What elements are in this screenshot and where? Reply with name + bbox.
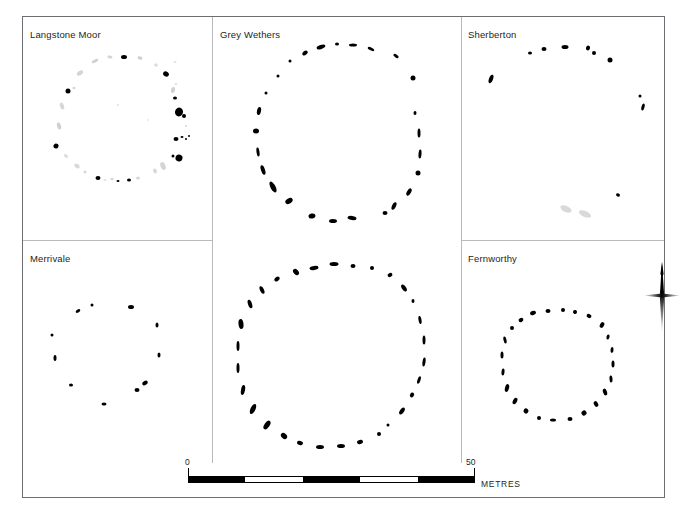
scale-bar <box>188 476 475 483</box>
scale-bar-group: 0 50 METRES <box>0 0 686 518</box>
scale-segment <box>245 476 302 483</box>
stone-circle-plans-figure: Langstone Moor Grey Wethers Sherberton M… <box>0 0 686 518</box>
scale-label-start: 0 <box>185 457 190 467</box>
scale-segment <box>418 476 475 483</box>
scale-segment <box>303 476 360 483</box>
scale-segment <box>188 476 245 483</box>
scale-units-label: METRES <box>481 479 521 489</box>
scale-segment <box>360 476 417 483</box>
scale-label-end: 50 <box>466 457 475 467</box>
